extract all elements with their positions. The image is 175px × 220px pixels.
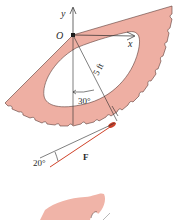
angle-20-label: 20° (33, 158, 46, 168)
y-axis-label: y (60, 8, 66, 19)
partial-next-figure-body (40, 193, 105, 220)
origin-label: O (56, 30, 63, 41)
force-label: F (83, 152, 89, 162)
gear-sector-body (5, 6, 172, 126)
gear-sector-diagram: y x O 5 ft 30° 20° F (0, 0, 175, 220)
angle-30-label: 30° (78, 96, 91, 106)
angle-20-arc (55, 152, 58, 161)
partial-next-figure-line (103, 213, 110, 220)
tangent-reference-line (40, 123, 115, 158)
angle-30-arc (73, 90, 94, 92)
x-axis-label: x (127, 38, 133, 49)
